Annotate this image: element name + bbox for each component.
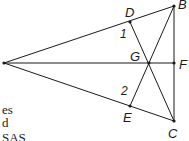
label-C: C (168, 126, 178, 141)
geometry-figure: B D 1 G F 2 E C (0, 0, 189, 141)
label-angle-2: 2 (120, 84, 128, 98)
point-C (172, 119, 175, 122)
segment-AC (4, 63, 174, 121)
label-G: G (130, 49, 140, 64)
point-G (147, 61, 150, 64)
point-F (172, 61, 175, 64)
label-D: D (125, 5, 134, 20)
point-E (128, 104, 131, 107)
label-F: F (179, 57, 188, 72)
label-angle-1: 1 (120, 27, 127, 41)
label-B: B (178, 0, 187, 12)
segment-DC (130, 22, 174, 121)
text-fragment-3: SAS (2, 131, 26, 141)
segment-AB (4, 6, 174, 63)
text-fragment-2: d (2, 116, 9, 129)
point-B (172, 4, 175, 7)
label-E: E (123, 110, 132, 125)
point-D (128, 20, 131, 23)
point-A (2, 61, 5, 64)
